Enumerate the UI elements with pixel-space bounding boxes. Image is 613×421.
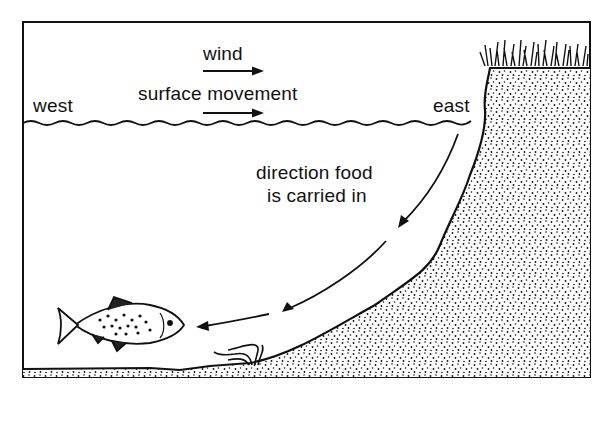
food-direction-label-line1: direction food — [256, 163, 373, 182]
wind-label: wind — [203, 44, 243, 63]
diagram-canvas — [0, 0, 613, 421]
east-label: east — [433, 96, 470, 115]
west-label: west — [33, 96, 73, 115]
food-direction-label-line2: is carried in — [267, 186, 367, 205]
surface-movement-label: surface movement — [138, 84, 298, 103]
